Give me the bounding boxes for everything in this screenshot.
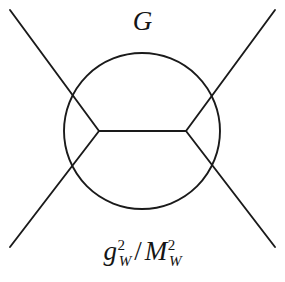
ratio-denominator-superscript: 2 (168, 237, 176, 253)
ratio-denominator-subscript: W (169, 253, 182, 269)
ratio-numerator-subscript: W (119, 253, 132, 269)
feynman-diagram-figure: G g2W/M2W (0, 0, 285, 282)
ratio-numerator-superscript: 2 (117, 237, 125, 253)
leg-lower-right-line (186, 131, 275, 247)
external-legs (10, 10, 275, 247)
ratio-divider: / (131, 236, 145, 266)
coupling-label-top-text: G (133, 6, 153, 36)
ratio-numerator-symbol: g (103, 236, 117, 266)
ratio-denominator-symbol: M (145, 236, 168, 266)
coupling-label-bottom: g2W/M2W (0, 238, 285, 265)
leg-lower-left-line (10, 131, 99, 247)
coupling-label-top: G (0, 8, 285, 35)
